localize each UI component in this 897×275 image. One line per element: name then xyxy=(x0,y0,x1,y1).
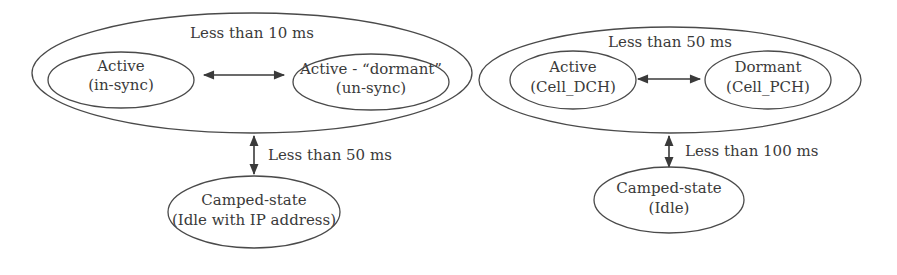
left-diagram: Less than 10 ms Active (in-sync) Active … xyxy=(32,13,472,248)
active-state-label: Active xyxy=(96,57,145,75)
dormant-state-label: Dormant xyxy=(734,58,801,76)
camped-state-sublabel: (Idle with IP address) xyxy=(172,211,336,229)
transition-latency-label: Less than 50 ms xyxy=(268,146,392,164)
group-latency-label: Less than 50 ms xyxy=(608,33,732,51)
active-state-label: Active xyxy=(548,58,597,76)
group-latency-label: Less than 10 ms xyxy=(190,24,314,42)
dormant-state-sublabel: (un-sync) xyxy=(336,79,406,97)
camped-state-sublabel: (Idle) xyxy=(649,199,690,217)
camped-state-label: Camped-state xyxy=(616,179,721,197)
state-transition-diagram: Less than 10 ms Active (in-sync) Active … xyxy=(0,0,897,275)
dormant-state-sublabel: (Cell_PCH) xyxy=(726,78,810,96)
transition-latency-label: Less than 100 ms xyxy=(685,142,818,160)
active-state-sublabel: (in-sync) xyxy=(88,76,153,94)
camped-state-label: Camped-state xyxy=(201,191,306,209)
active-state-sublabel: (Cell_DCH) xyxy=(530,78,616,96)
right-diagram: Less than 50 ms Active (Cell_DCH) Dorman… xyxy=(479,27,861,233)
dormant-state-label: Active - “dormant” xyxy=(299,60,442,78)
